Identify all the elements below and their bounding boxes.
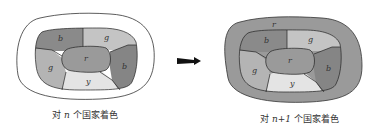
- right-caption-suffix: 个国家着色: [291, 114, 339, 124]
- left-label-g-top: g: [104, 33, 109, 42]
- right-caption-prefix: 对: [260, 114, 272, 124]
- left-caption-suffix: 个国家着色: [70, 110, 118, 120]
- right-caption-var: n+1: [272, 114, 291, 124]
- left-caption-prefix: 对: [52, 110, 64, 120]
- right-caption: 对 n+1 个国家着色: [260, 112, 339, 125]
- right-label-b-top: b: [264, 36, 269, 45]
- right-label-g-top: g: [308, 35, 313, 44]
- left-label-y: y: [85, 77, 91, 86]
- right-label-y: y: [289, 79, 295, 88]
- right-label-g-left: g: [252, 66, 257, 75]
- right-label-b-right: b: [326, 64, 331, 73]
- left-label-b-right: b: [122, 62, 127, 71]
- left-map: b g r g y b: [17, 13, 154, 99]
- arrow-icon: [177, 57, 201, 65]
- left-label-g-left: g: [48, 63, 53, 72]
- left-label-b-top: b: [58, 34, 63, 43]
- right-map: r b g r g y b: [225, 17, 362, 103]
- left-caption: 对 n 个国家着色: [52, 108, 118, 121]
